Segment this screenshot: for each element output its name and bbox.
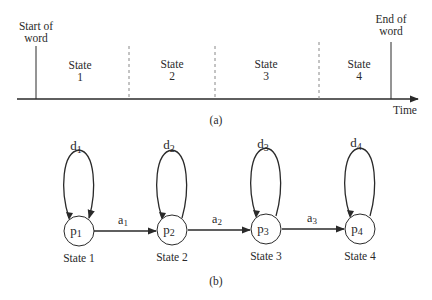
segment-3-num: 3 xyxy=(263,70,269,82)
state-3-caption: State 3 xyxy=(250,250,282,262)
diagram-canvas: Start of word End of word State 1 State … xyxy=(0,0,432,300)
loop-2-label: d2 xyxy=(163,137,175,154)
segment-4-title: State xyxy=(348,58,371,70)
self-loop-2 xyxy=(157,150,187,218)
self-loop-1 xyxy=(64,150,94,218)
end-of-word-label-line1: End of xyxy=(376,13,407,25)
state-2-caption: State 2 xyxy=(156,251,188,263)
start-of-word-label-line2: word xyxy=(24,32,48,44)
time-axis-label: Time xyxy=(393,104,417,116)
loop-1-label: d1 xyxy=(70,138,82,155)
loop-3-label: d3 xyxy=(257,136,269,153)
self-loop-4 xyxy=(345,148,375,216)
segment-2-num: 2 xyxy=(169,70,175,82)
state-4-caption: State 4 xyxy=(344,250,376,262)
segment-1-num: 1 xyxy=(77,71,83,83)
start-of-word-label-line1: Start of xyxy=(19,20,53,32)
caption-a: (a) xyxy=(210,114,223,127)
state-1-caption: State 1 xyxy=(63,252,95,264)
self-loop-3 xyxy=(251,148,281,216)
segment-4-num: 4 xyxy=(356,70,362,82)
transition-1-label: a1 xyxy=(118,213,128,228)
caption-b: (b) xyxy=(209,275,223,288)
state-machine-diagram: p1 p2 p3 p4 d1 d2 d3 d4 a1 a2 a3 State 1… xyxy=(63,135,376,288)
end-of-word-label-line2: word xyxy=(379,25,403,37)
timeline-diagram: Start of word End of word State 1 State … xyxy=(17,13,418,127)
segment-3-title: State xyxy=(255,58,278,70)
segment-1-title: State xyxy=(69,59,92,71)
loop-4-label: d4 xyxy=(350,135,362,152)
segment-2-title: State xyxy=(161,58,184,70)
transition-3-label: a3 xyxy=(307,211,317,226)
transition-2-label: a2 xyxy=(212,212,222,227)
